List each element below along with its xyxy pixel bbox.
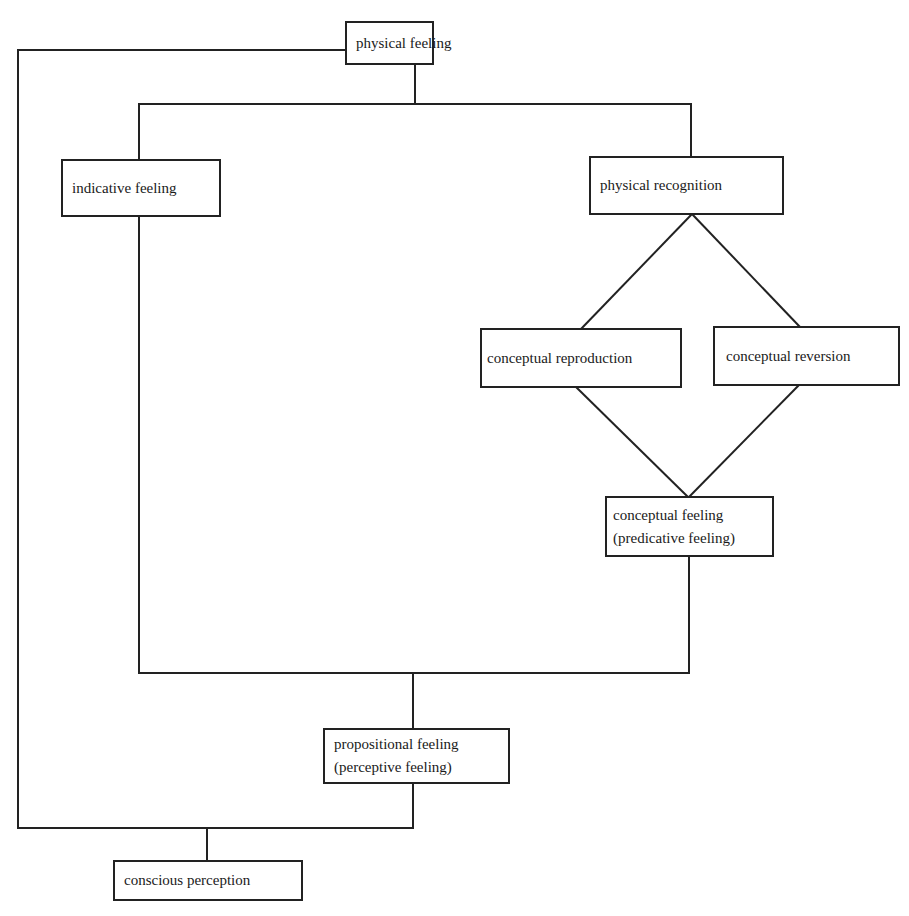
node-label: conceptual reversion	[726, 345, 889, 368]
node-label: physical recognition	[600, 174, 773, 197]
node-label-line2: (perceptive feeling)	[334, 756, 499, 779]
edge-propositional-to-conscious	[207, 782, 413, 828]
node-label: conceptual reproduction	[487, 347, 671, 370]
edge-reproduction-to-conceptual	[576, 387, 688, 497]
node-label-line1: conceptual feeling	[613, 504, 763, 527]
node-label: indicative feeling	[72, 177, 210, 200]
edge-branch-bar	[139, 104, 691, 160]
node-conceptual-feeling: conceptual feeling (predicative feeling)	[605, 496, 774, 557]
node-label-line1: propositional feeling	[334, 733, 499, 756]
node-label-line2: (predicative feeling)	[613, 527, 763, 550]
node-conceptual-reversion: conceptual reversion	[713, 326, 900, 386]
edge-reversion-to-conceptual	[689, 385, 799, 497]
node-propositional-feeling: propositional feeling (perceptive feelin…	[323, 728, 510, 784]
edge-indicative-to-merge	[139, 216, 689, 673]
node-conceptual-reproduction: conceptual reproduction	[480, 328, 682, 388]
edge-recognition-to-reversion	[692, 214, 800, 327]
node-label: conscious perception	[124, 869, 292, 892]
node-physical-recognition: physical recognition	[589, 156, 784, 215]
node-label: physical feeling	[356, 32, 423, 55]
node-conscious-perception: conscious perception	[113, 860, 303, 901]
edge-recognition-to-reproduction	[581, 214, 692, 329]
node-physical-feeling: physical feeling	[345, 21, 434, 65]
node-indicative-feeling: indicative feeling	[61, 159, 221, 217]
flowchart-diagram: physical feeling indicative feeling phys…	[0, 0, 909, 916]
